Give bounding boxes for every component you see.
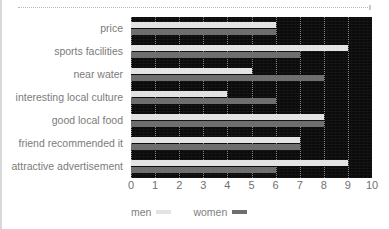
category-label: good local food [52, 109, 123, 132]
bar-men [131, 45, 348, 51]
x-tick-label: 9 [345, 179, 351, 191]
bar-women [131, 167, 276, 173]
legend-swatch-men [156, 210, 171, 214]
bar-women [131, 98, 276, 104]
legend-label: men [131, 206, 151, 218]
x-tick-label: 5 [248, 179, 254, 191]
x-tick-label: 0 [128, 179, 134, 191]
chart-legend: menwomen [131, 203, 247, 221]
bar-row [131, 63, 372, 86]
x-tick-label: 1 [152, 179, 158, 191]
category-label: near water [73, 63, 123, 86]
bar-row [131, 17, 372, 40]
bar-women [131, 75, 324, 81]
category-label: friend recommended it [19, 132, 123, 155]
legend-swatch-women [232, 210, 247, 214]
category-label: interesting local culture [16, 86, 123, 109]
legend-label: women [193, 206, 227, 218]
bar-row [131, 40, 372, 63]
category-label: price [100, 17, 123, 40]
bar-women [131, 52, 300, 58]
plot-area [131, 17, 372, 178]
bar-men [131, 160, 348, 166]
bar-women [131, 29, 276, 35]
x-axis-ticks: 012345678910 [131, 179, 372, 201]
x-tick-label: 7 [297, 179, 303, 191]
category-axis-labels: pricesports facilitiesnear waterinterest… [0, 17, 127, 178]
bar-row [131, 109, 372, 132]
x-tick-label: 6 [273, 179, 279, 191]
bar-men [131, 91, 227, 97]
x-tick-label: 8 [321, 179, 327, 191]
legend-item-men[interactable]: men [131, 206, 171, 218]
bar-row [131, 132, 372, 155]
bar-men [131, 68, 252, 74]
bar-chart: pricesports facilitiesnear waterinterest… [0, 0, 389, 229]
bar-men [131, 22, 276, 28]
bar-row [131, 155, 372, 178]
x-tick-label: 10 [366, 179, 378, 191]
bar-men [131, 137, 300, 143]
x-tick-label: 2 [176, 179, 182, 191]
bar-men [131, 114, 324, 120]
legend-item-women[interactable]: women [193, 206, 247, 218]
x-tick-label: 4 [224, 179, 230, 191]
bar-women [131, 121, 324, 127]
bar-women [131, 144, 300, 150]
category-label: sports facilities [54, 40, 123, 63]
bar-row [131, 86, 372, 109]
category-label: attractive advertisement [12, 155, 123, 178]
x-tick-label: 3 [200, 179, 206, 191]
